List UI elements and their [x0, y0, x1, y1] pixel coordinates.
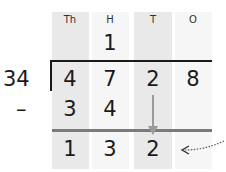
bring-down-arrow-icon [148, 95, 158, 135]
dotted-pointer-arrow-icon [182, 141, 224, 154]
arrows-layer [0, 0, 226, 172]
